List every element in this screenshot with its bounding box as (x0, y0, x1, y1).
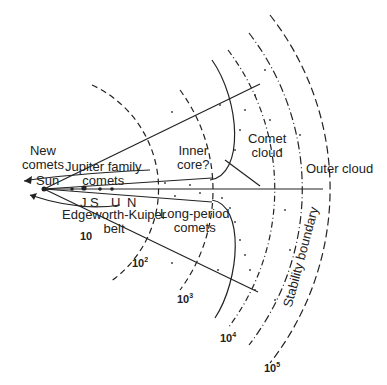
label-long-period: Long-period comets (160, 207, 229, 235)
marker-base: 10 (264, 362, 276, 374)
label-comet-cloud: Comet cloud (248, 132, 286, 160)
marker-base: 10 (177, 293, 189, 305)
label-line: Inner (177, 144, 210, 158)
label-line: New (22, 144, 64, 158)
label-outer-cloud: Outer cloud (306, 162, 373, 176)
marker-10: 10 (80, 230, 92, 242)
label-line: core? (177, 158, 210, 172)
label-line: Jupiter family (65, 160, 142, 174)
marker-base: 10 (80, 230, 92, 242)
label-inner-core: Inner core? (177, 144, 210, 172)
label-line: comets (22, 158, 64, 172)
marker-exp: 5 (276, 361, 280, 368)
marker-exp: 2 (144, 256, 148, 263)
marker-exp: 3 (189, 292, 193, 299)
oort-cloud-diagram: New comets Jupiter family comets Sun J S… (0, 0, 387, 385)
marker-base: 10 (220, 332, 232, 344)
marker-exp: 4 (232, 331, 236, 338)
inner-core-boundary-top (210, 60, 235, 180)
label-line: cloud (248, 146, 286, 160)
label-line: belt (62, 222, 166, 236)
label-new-comets: New comets (22, 144, 64, 172)
label-line: comets (160, 221, 229, 235)
marker-10-4: 104 (220, 331, 236, 344)
marker-base: 10 (132, 257, 144, 269)
marker-10-2: 102 (132, 256, 148, 269)
label-line: Long-period (160, 207, 229, 221)
label-jupiter-family: Jupiter family comets (65, 160, 142, 188)
label-sun: Sun (36, 174, 59, 188)
marker-10-5: 105 (264, 361, 280, 374)
diagram-graphics (0, 0, 387, 385)
label-line: Edgeworth-Kuiper (62, 208, 166, 222)
label-line: comets (65, 174, 142, 188)
label-line: Comet (248, 132, 286, 146)
marker-10-3: 103 (177, 292, 193, 305)
label-edgeworth-kuiper: Edgeworth-Kuiper belt (62, 208, 166, 236)
